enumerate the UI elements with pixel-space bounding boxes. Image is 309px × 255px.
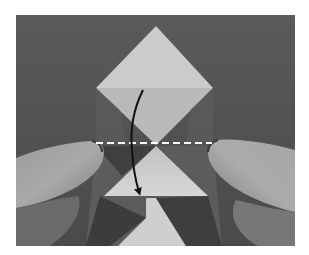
figure-frame — [0, 0, 309, 255]
origami-photo — [16, 15, 295, 246]
origami-photo-svg — [16, 15, 295, 246]
